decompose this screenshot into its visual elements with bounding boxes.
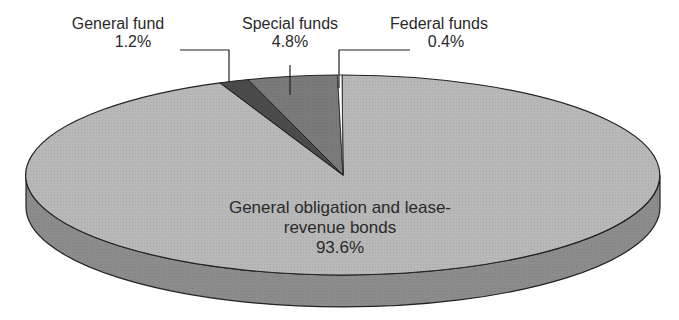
label-special-funds-pct: 4.8%	[228, 33, 352, 51]
label-bonds-line1: General obligation and lease-	[190, 198, 490, 218]
label-special-funds-name: Special funds	[228, 15, 352, 33]
leader-general-fund	[180, 50, 229, 82]
label-general-fund-pct: 1.2%	[62, 33, 174, 51]
label-federal-funds: Federal funds 0.4%	[376, 15, 502, 51]
label-bonds-pct: 93.6%	[190, 238, 490, 258]
label-federal-funds-pct: 0.4%	[376, 33, 502, 51]
label-bonds-line2: revenue bonds	[190, 218, 490, 238]
label-federal-funds-name: Federal funds	[376, 15, 502, 33]
label-general-fund-name: General fund	[62, 15, 174, 33]
label-general-fund: General fund 1.2%	[62, 15, 174, 51]
label-special-funds: Special funds 4.8%	[228, 15, 352, 51]
label-bonds: General obligation and lease- revenue bo…	[190, 198, 490, 258]
